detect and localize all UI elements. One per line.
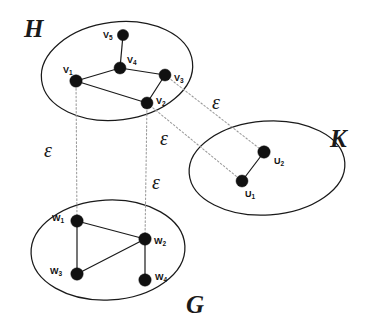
edge-w1-w2 bbox=[77, 221, 145, 239]
vertex-label-v2: V2 bbox=[156, 97, 166, 106]
edge-v1-v2 bbox=[76, 81, 147, 103]
map-v2-w2 bbox=[145, 103, 147, 239]
vertex-node-v2 bbox=[141, 97, 153, 109]
vertex-node-w4 bbox=[139, 274, 151, 286]
epsilon-label-v2-u1: ε bbox=[160, 128, 168, 148]
vertex-label-w4: W4 bbox=[155, 273, 167, 282]
diagram-canvas: HKGεεεεV5V4V1V3V2U2U1W1W2W3W4 bbox=[0, 0, 384, 332]
vertex-node-layer bbox=[70, 29, 270, 286]
epsilon-label-v3-u2: ε bbox=[212, 92, 220, 112]
edge-v4-v1 bbox=[76, 68, 120, 81]
vertex-node-v1 bbox=[70, 75, 82, 87]
edge-v4-v3 bbox=[120, 68, 165, 75]
vertex-label-w3: W3 bbox=[50, 267, 62, 276]
vertex-label-v1: V1 bbox=[63, 66, 73, 75]
vertex-label-w2: W2 bbox=[154, 237, 166, 246]
set-ellipse-k bbox=[186, 116, 348, 221]
vertex-label-v5: V5 bbox=[103, 31, 113, 40]
set-label-k: K bbox=[330, 126, 347, 151]
vertex-node-v4 bbox=[114, 62, 126, 74]
vertex-node-v5 bbox=[117, 29, 128, 40]
vertex-label-u1: U1 bbox=[245, 190, 255, 199]
vertex-node-u2 bbox=[258, 146, 270, 158]
vertex-label-v4: V4 bbox=[127, 56, 137, 65]
vertex-node-u1 bbox=[236, 175, 248, 187]
map-v3-u2 bbox=[165, 75, 264, 152]
vertex-node-v3 bbox=[159, 69, 171, 81]
set-label-h: H bbox=[24, 16, 43, 41]
vertex-node-w3 bbox=[71, 268, 83, 280]
edge-w3-w2 bbox=[77, 239, 145, 274]
vertex-label-v3: V3 bbox=[174, 74, 184, 83]
diagram-svg bbox=[0, 0, 384, 332]
vertex-label-u2: U2 bbox=[274, 157, 284, 166]
map-v1-w1 bbox=[76, 81, 77, 221]
epsilon-label-v2-w2: ε bbox=[152, 172, 160, 192]
mapping-line-layer bbox=[76, 75, 264, 239]
vertex-node-w2 bbox=[139, 233, 151, 245]
set-label-g: G bbox=[186, 292, 204, 317]
epsilon-label-v1-w1: ε bbox=[44, 140, 52, 160]
vertex-node-w1 bbox=[71, 215, 83, 227]
vertex-label-w1: W1 bbox=[52, 214, 64, 223]
